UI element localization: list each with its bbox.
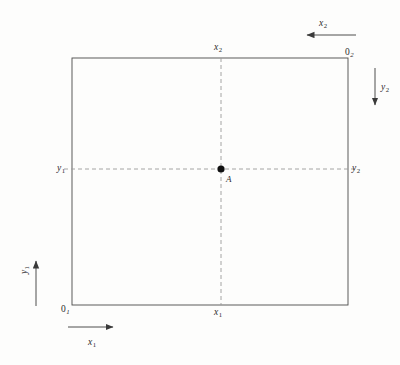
diagram-canvas	[0, 0, 400, 365]
y1-arrow-label: y1	[19, 266, 29, 274]
x1-arrow-label: x1	[88, 337, 96, 347]
x1-bottom-label: x1	[214, 307, 222, 317]
y1-left-label: y1	[57, 163, 65, 173]
x2-arrow-label: x2	[319, 18, 327, 28]
y2-right-label: y2	[352, 163, 360, 173]
edgeworth-box-diagram: 01 02 x2 x1 y1 y2 A x1 y1 x2 y2	[0, 0, 400, 365]
origin-1-label: 01	[61, 304, 69, 314]
origin-2-label: 02	[345, 47, 353, 57]
x2-top-label: x2	[214, 42, 222, 52]
y2-arrow-label: y2	[381, 82, 389, 92]
allocation-point-a	[217, 165, 224, 172]
edgeworth-box-rectangle	[72, 58, 348, 305]
point-a-label: A	[226, 174, 232, 184]
